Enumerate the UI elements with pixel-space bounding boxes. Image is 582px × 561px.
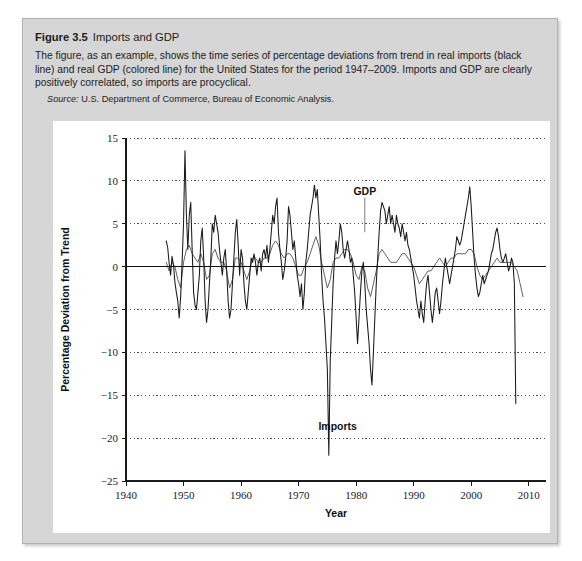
x-tick-label: 1980 bbox=[345, 489, 368, 501]
figure-description: The figure, as an example, shows the tim… bbox=[35, 49, 543, 90]
y-tick-label: 15 bbox=[107, 132, 119, 144]
series-line-imports bbox=[166, 151, 516, 455]
x-tick-labels-group: 19401950196019701980199020002010 bbox=[115, 489, 540, 501]
y-tick-label: −5 bbox=[106, 304, 118, 316]
chart-panel: −25−20−15−10−5051015 1940195019601970198… bbox=[53, 121, 550, 533]
screenshot-root: Figure 3.5Imports and GDP The figure, as… bbox=[0, 0, 582, 561]
data-series-group bbox=[126, 151, 546, 455]
y-tick-label: −20 bbox=[101, 432, 119, 444]
annotation-label-imports: Imports bbox=[318, 420, 357, 432]
y-axis-title: Percentage Deviation from Trend bbox=[59, 227, 71, 392]
figure-caption: Figure 3.5Imports and GDP The figure, as… bbox=[35, 30, 547, 106]
x-tick-label: 1950 bbox=[173, 489, 196, 501]
figure-box: Figure 3.5Imports and GDP The figure, as… bbox=[22, 18, 558, 544]
y-tick-labels-group: −25−20−15−10−5051015 bbox=[101, 132, 119, 487]
figure-number: Figure 3.5 bbox=[35, 31, 88, 43]
x-tick-label: 2010 bbox=[518, 489, 541, 501]
x-tick-label: 1970 bbox=[288, 489, 311, 501]
y-tick-label: 10 bbox=[107, 175, 119, 187]
figure-source: Source: U.S. Department of Commerce, Bur… bbox=[47, 93, 547, 106]
x-tick-label: 1940 bbox=[115, 489, 138, 501]
y-tick-label: −15 bbox=[101, 389, 119, 401]
figure-title: Figure 3.5Imports and GDP bbox=[35, 30, 547, 45]
annotation-label-gdp: GDP bbox=[353, 185, 376, 197]
source-label: Source: bbox=[47, 94, 79, 104]
source-text: U.S. Department of Commerce, Bureau of E… bbox=[81, 94, 334, 104]
y-tick-label: −25 bbox=[101, 475, 119, 487]
x-tick-label: 1960 bbox=[230, 489, 253, 501]
y-tick-label: −10 bbox=[101, 346, 119, 358]
x-tick-label: 2000 bbox=[460, 489, 483, 501]
x-axis-title: Year bbox=[325, 507, 347, 519]
imports-gdp-line-chart: −25−20−15−10−5051015 1940195019601970198… bbox=[53, 121, 550, 533]
annotations-group: GDPImports bbox=[318, 185, 376, 432]
y-tick-label: 5 bbox=[113, 218, 119, 230]
figure-name: Imports and GDP bbox=[93, 31, 179, 43]
y-tick-label: 0 bbox=[113, 261, 119, 273]
x-tick-label: 1990 bbox=[403, 489, 426, 501]
